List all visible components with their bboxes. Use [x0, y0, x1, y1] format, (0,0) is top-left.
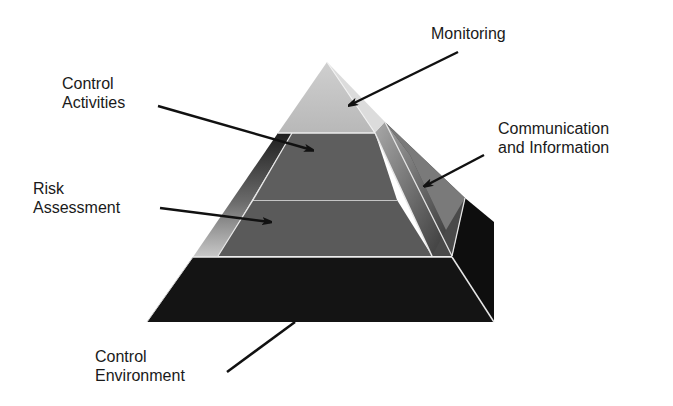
layer-monitoring [278, 62, 385, 133]
label-control-environment: Control Environment [95, 347, 185, 385]
arrow-control-environment [227, 322, 295, 372]
label-control-activities-line1: Control [62, 74, 125, 93]
label-communication: Communication and Information [498, 119, 609, 157]
label-control-activities-line2: Activities [62, 93, 125, 112]
arrow-monitoring [350, 52, 458, 105]
label-environment-line2: Environment [95, 366, 185, 385]
layer-risk-assessment [218, 200, 432, 256]
label-risk-assessment: Risk Assessment [33, 179, 120, 217]
label-risk-line1: Risk [33, 179, 120, 198]
label-communication-line1: Communication [498, 119, 609, 138]
label-communication-line2: and Information [498, 138, 609, 157]
label-risk-line2: Assessment [33, 198, 120, 217]
label-monitoring: Monitoring [431, 24, 506, 43]
label-environment-line1: Control [95, 347, 185, 366]
label-control-activities: Control Activities [62, 74, 125, 112]
